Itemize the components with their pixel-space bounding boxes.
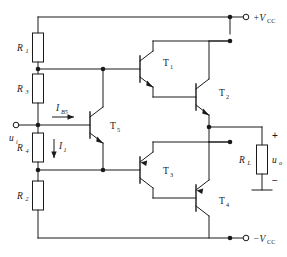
- resistor-r4: R 4: [16, 125, 44, 170]
- r1-body: [33, 33, 44, 62]
- transistor-t4: T 4: [196, 142, 230, 238]
- svg-text:R: R: [16, 43, 23, 53]
- svg-text:I: I: [58, 141, 63, 151]
- t2-collector-slant: [196, 79, 209, 89]
- transistor-t1: T 1: [140, 41, 230, 97]
- label-vcc-negative: −V CC: [253, 234, 275, 246]
- svg-text:i: i: [16, 138, 18, 145]
- svg-text:CC: CC: [267, 238, 275, 245]
- r4-body: [33, 133, 44, 162]
- rl-body: [257, 145, 268, 174]
- t5-collector-slant: [90, 107, 103, 117]
- svg-text:2: 2: [26, 195, 29, 202]
- circuit-diagram-page: +V CC R 1 R 3 R 4: [0, 0, 287, 257]
- svg-text:+V: +V: [253, 13, 266, 23]
- svg-text:o: o: [279, 159, 282, 166]
- svg-text:I: I: [55, 103, 60, 113]
- svg-text:−V: −V: [253, 234, 266, 244]
- svg-text:T: T: [110, 121, 116, 131]
- i1-arrow-head: [51, 152, 56, 159]
- svg-text:1: 1: [64, 146, 67, 153]
- t4-emitter-slant: [196, 180, 209, 190]
- svg-text:u: u: [9, 133, 14, 143]
- transistor-t5: T 5: [38, 67, 120, 173]
- terminal-vcc-neg: [243, 235, 249, 241]
- current-ib5: I B5: [52, 103, 74, 120]
- t3-emitter-arrow: [141, 161, 148, 166]
- svg-text:4: 4: [26, 147, 29, 154]
- t3-emitter-slant: [140, 152, 153, 162]
- svg-text:−: −: [272, 175, 278, 186]
- svg-text:u: u: [272, 155, 277, 165]
- resistor-r3: R 3: [16, 74, 44, 125]
- terminal-vcc-pos: [243, 14, 249, 20]
- svg-text:1: 1: [26, 47, 29, 54]
- svg-text:R: R: [16, 191, 23, 201]
- label-vcc-positive: +V CC: [253, 13, 275, 25]
- svg-text:+: +: [272, 130, 278, 141]
- top-supply-rail: [38, 14, 249, 34]
- svg-text:4: 4: [226, 201, 229, 208]
- t5-emitter-arrow: [96, 136, 103, 143]
- svg-text:R: R: [16, 84, 23, 94]
- transistor-t3: T 3: [140, 142, 230, 198]
- t4-collector-slant: [196, 206, 209, 216]
- t1-collector-slant: [140, 51, 153, 61]
- svg-text:T: T: [219, 88, 225, 98]
- svg-text:1: 1: [170, 63, 173, 70]
- svg-text:2: 2: [226, 93, 229, 100]
- bottom-supply-rail: [38, 235, 249, 241]
- transistor-t2: T 2: [196, 41, 230, 127]
- terminal-input[interactable]: [13, 122, 19, 128]
- t4-emitter-arrow: [197, 189, 204, 194]
- svg-text:5: 5: [117, 126, 120, 133]
- svg-text:B5: B5: [61, 108, 68, 115]
- r3-body: [33, 74, 44, 103]
- t3-collector-slant: [140, 178, 153, 188]
- svg-text:R: R: [238, 155, 245, 165]
- resistor-r2: R 2: [16, 170, 44, 238]
- svg-text:T: T: [219, 196, 225, 206]
- current-i1: I 1: [51, 139, 66, 158]
- circuit-schematic: +V CC R 1 R 3 R 4: [0, 0, 287, 257]
- r2-body: [33, 181, 44, 210]
- t1-emitter-arrow: [146, 80, 153, 87]
- resistor-rl: R L: [238, 145, 268, 190]
- svg-text:CC: CC: [267, 17, 275, 24]
- t2-emitter-arrow: [202, 108, 209, 115]
- svg-text:3: 3: [170, 171, 173, 178]
- output-voltage-label: u o + −: [272, 130, 282, 186]
- svg-text:T: T: [163, 166, 169, 176]
- ib5-arrow-head: [68, 114, 75, 119]
- svg-text:L: L: [247, 159, 252, 166]
- svg-text:T: T: [163, 58, 169, 68]
- svg-text:3: 3: [25, 88, 29, 95]
